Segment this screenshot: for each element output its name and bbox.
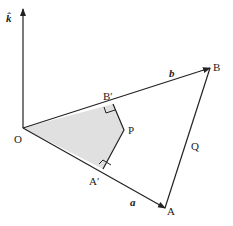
point-label-A-prime: A′ [89,175,99,187]
point-label-B: B [213,61,220,73]
vector-label-a: a [130,196,136,208]
point-label-B-prime: B′ [103,90,113,102]
axis-label-k: k̂ [6,12,12,24]
vector-diagram: k̂ O B′ P A′ A B Q b a [0,0,233,226]
point-label-A: A [167,205,175,217]
vector-label-b: b [169,67,175,79]
segment-AB [165,68,210,208]
point-label-P: P [128,124,134,136]
point-label-O: O [14,133,22,145]
side-label-Q: Q [191,140,199,152]
